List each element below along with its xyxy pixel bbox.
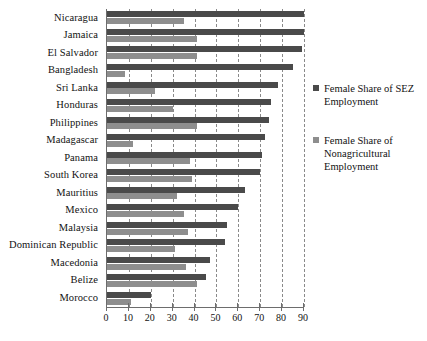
bar-group [107, 149, 304, 167]
bar-group [107, 9, 304, 27]
x-axis-line [106, 307, 304, 308]
category-label: Jamaica [0, 27, 102, 45]
bar-group [107, 44, 304, 62]
legend-swatch-icon [313, 137, 319, 143]
bar-nonagricultural-employment [107, 88, 155, 94]
category-label: Dominican Republic [0, 237, 102, 255]
category-label: Panama [0, 149, 102, 167]
category-axis-labels: NicaraguaJamaicaEl SalvadorBangladeshSri… [0, 9, 102, 307]
x-axis-tick [215, 303, 216, 311]
bar-sez-employment [107, 204, 238, 210]
bar-nonagricultural-employment [107, 176, 192, 182]
x-axis-tick-label: 30 [167, 312, 177, 323]
bar-group [107, 132, 304, 150]
bar-sez-employment [107, 239, 225, 245]
category-label: Macedonia [0, 254, 102, 272]
bar-nonagricultural-employment [107, 36, 197, 42]
x-axis-tick-label: 20 [145, 312, 155, 323]
bar-group [107, 272, 304, 290]
x-axis-tick [128, 303, 129, 311]
x-axis-tick [194, 303, 195, 311]
bar-nonagricultural-employment [107, 71, 125, 77]
gridline [304, 9, 305, 307]
bar-sez-employment [107, 134, 265, 140]
bar-nonagricultural-employment [107, 193, 177, 199]
x-axis-tick [259, 303, 260, 311]
x-axis-tick-label: 50 [210, 312, 220, 323]
bar-group [107, 114, 304, 132]
x-axis-tick-label: 40 [189, 312, 199, 323]
category-label: Bangladesh [0, 62, 102, 80]
bar-nonagricultural-employment [107, 281, 197, 287]
x-axis-tick-label: 70 [254, 312, 264, 323]
bar-nonagricultural-employment [107, 158, 190, 164]
legend-swatch-icon [313, 85, 319, 91]
bar-group [107, 79, 304, 97]
bar-sez-employment [107, 257, 210, 263]
category-label: Madagascar [0, 132, 102, 150]
legend-label: Female Share of Nonagricultural Employme… [324, 134, 423, 173]
bar-group [107, 219, 304, 237]
legend-item: Female Share of Nonagricultural Employme… [313, 134, 423, 173]
bar-sez-employment [107, 29, 304, 35]
x-axis-tick-label: 80 [276, 312, 286, 323]
bar-nonagricultural-employment [107, 229, 188, 235]
bar-sez-employment [107, 169, 260, 175]
bar-sez-employment [107, 187, 245, 193]
x-axis-tick [150, 303, 151, 311]
category-label: El Salvador [0, 44, 102, 62]
x-axis-tick [303, 303, 304, 311]
x-axis-tick [106, 303, 107, 311]
bar-sez-employment [107, 64, 293, 70]
bar-nonagricultural-employment [107, 106, 173, 112]
category-label: Mexico [0, 202, 102, 220]
bar-group [107, 62, 304, 80]
bar-sez-employment [107, 152, 262, 158]
category-label: Mauritius [0, 184, 102, 202]
bar-group [107, 202, 304, 220]
category-label: Nicaragua [0, 9, 102, 27]
bar-chart: NicaraguaJamaicaEl SalvadorBangladeshSri… [0, 0, 427, 341]
category-label: Malaysia [0, 219, 102, 237]
bar-nonagricultural-employment [107, 264, 186, 270]
bar-group [107, 97, 304, 115]
bar-sez-employment [107, 11, 304, 17]
category-label: Morocco [0, 290, 102, 308]
plot-area [106, 9, 304, 307]
bar-nonagricultural-employment [107, 123, 197, 129]
category-label: Honduras [0, 97, 102, 115]
x-axis-tick-label: 0 [104, 312, 109, 323]
x-axis-tick-label: 90 [298, 312, 308, 323]
bar-nonagricultural-employment [107, 53, 197, 59]
bar-sez-employment [107, 292, 151, 298]
bar-group [107, 184, 304, 202]
bar-group [107, 167, 304, 185]
bar-nonagricultural-employment [107, 246, 175, 252]
bar-group [107, 237, 304, 255]
bar-sez-employment [107, 46, 302, 52]
bar-sez-employment [107, 117, 269, 123]
legend-label: Female Share of SEZ Employment [324, 82, 423, 108]
x-axis-tick-label: 10 [123, 312, 133, 323]
bar-group [107, 27, 304, 45]
chart-legend: Female Share of SEZ EmploymentFemale Sha… [313, 82, 423, 199]
bar-group [107, 290, 304, 308]
bar-sez-employment [107, 99, 271, 105]
category-label: South Korea [0, 167, 102, 185]
x-axis-tick [281, 303, 282, 311]
bar-sez-employment [107, 274, 206, 280]
bar-nonagricultural-employment [107, 18, 184, 24]
bars-layer [107, 9, 304, 307]
x-axis-tick [172, 303, 173, 311]
bar-nonagricultural-employment [107, 141, 133, 147]
bar-group [107, 254, 304, 272]
category-label: Belize [0, 272, 102, 290]
bar-sez-employment [107, 82, 278, 88]
category-label: Sri Lanka [0, 79, 102, 97]
x-axis-tick [237, 303, 238, 311]
legend-item: Female Share of SEZ Employment [313, 82, 423, 108]
bar-sez-employment [107, 222, 227, 228]
bar-nonagricultural-employment [107, 211, 184, 217]
x-axis-tick-label: 60 [232, 312, 242, 323]
category-label: Philippines [0, 114, 102, 132]
